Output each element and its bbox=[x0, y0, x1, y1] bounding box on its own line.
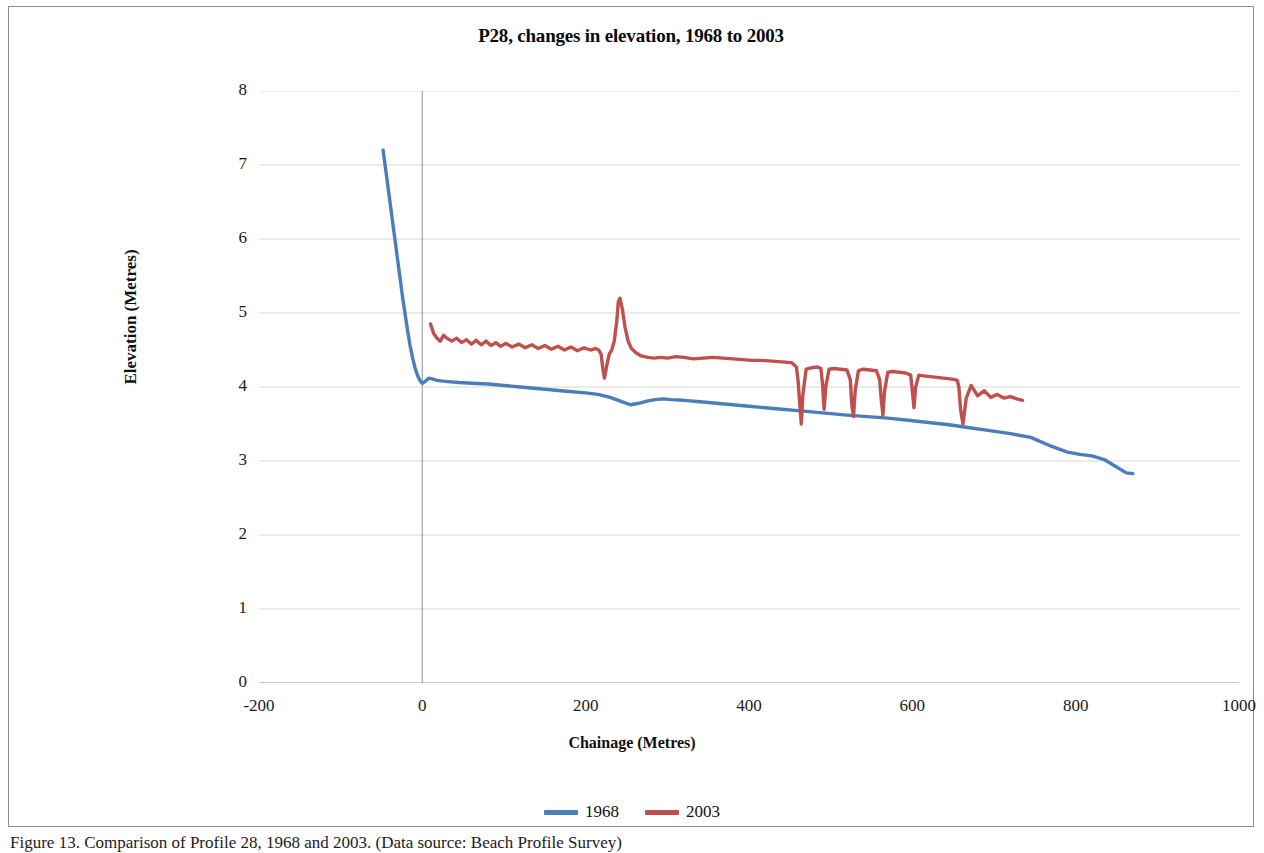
legend-label-1968: 1968 bbox=[585, 802, 619, 822]
y-tick-label-1: 1 bbox=[201, 599, 247, 616]
y-tick-label-6: 6 bbox=[201, 229, 247, 246]
y-tick-label-8: 8 bbox=[201, 81, 247, 98]
y-tick-label-3: 3 bbox=[201, 451, 247, 468]
legend-swatch-icon-1968 bbox=[544, 810, 578, 815]
y-tick-label-2: 2 bbox=[201, 525, 247, 542]
chart-plot-svg bbox=[259, 91, 1239, 683]
y-tick-label-0: 0 bbox=[201, 673, 247, 690]
legend-swatch-icon-2003 bbox=[645, 810, 679, 815]
x-tick-label-1000: 1000 bbox=[1194, 697, 1264, 714]
legend-entry-2003[interactable]: 2003 bbox=[645, 802, 720, 822]
chart-title: P28, changes in elevation, 1968 to 2003 bbox=[9, 25, 1253, 47]
y-tick-label-7: 7 bbox=[201, 155, 247, 172]
x-tick-label-0: 0 bbox=[377, 697, 467, 714]
legend-label-2003: 2003 bbox=[686, 802, 720, 822]
x-tick-label--200: -200 bbox=[214, 697, 304, 714]
figure-caption: Figure 13. Comparison of Profile 28, 196… bbox=[10, 833, 1254, 853]
chart-frame: P28, changes in elevation, 1968 to 2003 … bbox=[8, 6, 1254, 827]
y-axis-title: Elevation (Metres) bbox=[121, 177, 141, 457]
x-tick-label-400: 400 bbox=[704, 697, 794, 714]
legend-entry-1968[interactable]: 1968 bbox=[544, 802, 619, 822]
x-tick-label-600: 600 bbox=[867, 697, 957, 714]
chart-legend: 19682003 bbox=[9, 802, 1255, 822]
x-axis-title: Chainage (Metres) bbox=[9, 734, 1255, 752]
x-tick-label-800: 800 bbox=[1031, 697, 1121, 714]
plot-area bbox=[259, 91, 1239, 683]
x-tick-label-200: 200 bbox=[541, 697, 631, 714]
y-tick-label-5: 5 bbox=[201, 303, 247, 320]
y-tick-label-4: 4 bbox=[201, 377, 247, 394]
series-line-1968 bbox=[383, 150, 1133, 473]
